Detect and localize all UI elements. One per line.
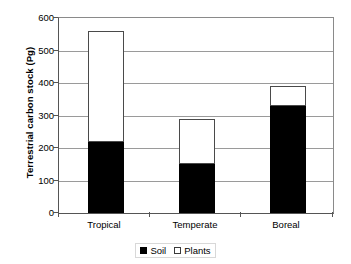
y-tick-label-0: 0 [18, 207, 54, 218]
bar-group-tropical [88, 31, 124, 213]
x-category-label-boreal: Boreal [240, 219, 332, 230]
x-tick-mark-right [332, 212, 333, 217]
legend-label-soil: Soil [150, 245, 166, 256]
y-tick-label-400: 400 [18, 77, 54, 88]
legend-label-plants: Plants [184, 245, 210, 256]
plot-area [58, 17, 334, 214]
bar-segment-temperate-plants [179, 119, 215, 165]
y-tick-label-100: 100 [18, 174, 54, 185]
y-tick-label-600: 600 [18, 12, 54, 23]
bar-segment-temperate-soil [179, 164, 215, 213]
chart-legend: Soil Plants [0, 243, 351, 258]
stacked-bar-chart: Terrestrial carbon stock (Pg) 0 100 200 … [0, 0, 351, 264]
y-tick-label-300: 300 [18, 109, 54, 120]
x-category-label-tropical: Tropical [58, 219, 150, 230]
x-category-label-temperate: Temperate [149, 219, 241, 230]
legend-box: Soil Plants [135, 243, 215, 258]
bar-group-boreal [270, 86, 306, 213]
legend-entry-plants: Plants [174, 245, 210, 256]
legend-swatch-soil-icon [140, 247, 147, 254]
x-tick-mark-left [58, 212, 59, 217]
bar-segment-boreal-plants [270, 86, 306, 106]
bar-segment-tropical-soil [88, 142, 124, 214]
x-tick-mark-2 [240, 212, 241, 217]
legend-swatch-plants-icon [174, 247, 181, 254]
y-tick-label-200: 200 [18, 142, 54, 153]
x-tick-mark-1 [149, 212, 150, 217]
bar-group-temperate [179, 119, 215, 213]
legend-entry-soil: Soil [140, 245, 166, 256]
y-tick-label-500: 500 [18, 44, 54, 55]
bar-segment-boreal-soil [270, 106, 306, 213]
bar-segment-tropical-plants [88, 31, 124, 142]
